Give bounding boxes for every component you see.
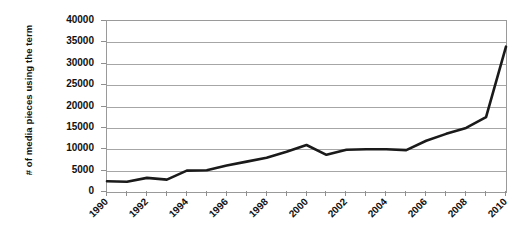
y-axis-tick-label: 0 xyxy=(88,185,94,197)
x-axis-tick-label: 2004 xyxy=(366,196,390,220)
x-axis-tick-label: 1990 xyxy=(87,196,111,220)
y-axis-tick-label: 20000 xyxy=(66,100,94,112)
x-axis-tick-label: 1992 xyxy=(126,196,150,220)
plot-area xyxy=(106,20,507,193)
y-axis-tick-labels: 0500010000150002000025000300003500040000 xyxy=(36,13,100,198)
x-axis-tick-label: 2008 xyxy=(446,196,470,220)
x-axis-tick-label: 2002 xyxy=(326,196,350,220)
series-polyline xyxy=(107,47,506,182)
x-axis-tick-labels: 1990199219941996199820002002200420062008… xyxy=(106,196,506,230)
y-axis-tick-label: 10000 xyxy=(66,142,94,154)
y-axis-tick-label: 5000 xyxy=(72,164,94,176)
y-axis-tick-label: 25000 xyxy=(66,78,94,90)
y-axis-title: # of media pieces using the term xyxy=(22,0,36,200)
x-axis-tick-label: 2000 xyxy=(286,196,310,220)
line-chart: # of media pieces using the term 0500010… xyxy=(0,0,526,230)
y-axis-tick-label: 40000 xyxy=(66,14,94,26)
y-axis-tick-label: 15000 xyxy=(66,121,94,133)
x-axis-tick-label: 2006 xyxy=(406,196,430,220)
y-axis-tick-label: 30000 xyxy=(66,57,94,69)
y-axis-tick-label: 35000 xyxy=(66,35,94,47)
x-axis-tick-label: 1994 xyxy=(166,196,190,220)
data-series-line xyxy=(107,21,506,192)
x-axis-tick-label: 1998 xyxy=(246,196,270,220)
x-axis-tick-label: 1996 xyxy=(206,196,230,220)
x-axis-tick-label: 2010 xyxy=(486,196,510,220)
